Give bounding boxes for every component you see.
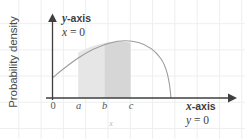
x-axis-equation-rest: = 0 xyxy=(191,114,209,126)
tick-label-a: a xyxy=(72,100,86,111)
y-axis-arrowhead xyxy=(48,14,57,23)
tick-label-b: b xyxy=(98,100,112,111)
y-axis-equation: x = 0 xyxy=(62,26,85,38)
x-axis-name-suffix: -axis xyxy=(192,100,216,112)
shaded-region-b-to-c xyxy=(104,41,130,98)
x-axis-name-label: x-axis xyxy=(186,100,216,112)
y-axis-name-label: y-axis xyxy=(62,12,91,24)
x-axis-arrowhead xyxy=(228,94,237,103)
x-axis-equation: y = 0 xyxy=(186,114,209,126)
x-variable-label: x xyxy=(104,119,118,128)
y-axis-name-suffix: -axis xyxy=(67,12,91,24)
shaded-region-a-to-b xyxy=(78,43,104,98)
y-axis-equation-rest: = 0 xyxy=(67,26,85,38)
figure-canvas: Probability density y-axis x = 0 x-axis … xyxy=(0,0,245,139)
tick-label-c: c xyxy=(124,100,138,111)
tick-label-origin: 0 xyxy=(46,100,60,111)
